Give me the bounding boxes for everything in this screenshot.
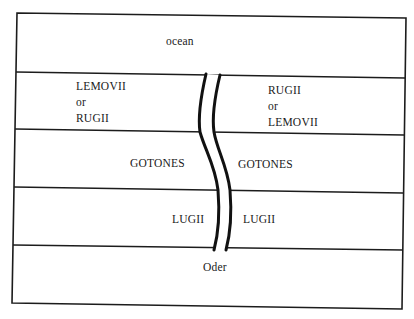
label-band3-right: LUGII xyxy=(243,213,275,225)
label-band3-left: LUGII xyxy=(172,213,204,225)
label-band1-left-line3: RUGII xyxy=(76,112,109,124)
divider-band2-band3 xyxy=(14,187,403,193)
label-band1-left-line2: or xyxy=(76,96,86,108)
label-band2-left: GOTONES xyxy=(130,157,185,169)
label-band1-right-line3: LEMOVII xyxy=(268,116,318,128)
tribal-map-diagram: ocean LEMOVII or RUGII RUGII or LEMOVII … xyxy=(0,0,414,319)
label-band2-right: GOTONES xyxy=(238,158,293,170)
divider-band3-band4 xyxy=(13,245,403,250)
label-band1-left-line1: LEMOVII xyxy=(76,80,126,92)
label-ocean: ocean xyxy=(166,35,194,47)
label-river-oder: Oder xyxy=(203,261,227,273)
label-band1-right-line1: RUGII xyxy=(268,84,301,96)
label-band1-right-line2: or xyxy=(268,100,278,112)
